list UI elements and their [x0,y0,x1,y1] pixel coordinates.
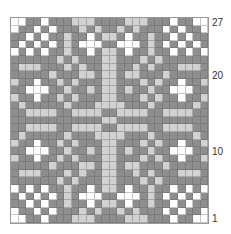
chart-cell [140,18,148,26]
chart-cell [155,177,163,185]
chart-cell [178,33,186,41]
chart-cell [133,48,141,56]
chart-cell [178,41,186,49]
chart-cell [163,86,171,94]
chart-cell [87,33,95,41]
chart-cell [133,147,141,155]
chart-cell [163,170,171,178]
chart-cell [110,132,118,140]
chart-cell [11,79,19,87]
chart-cell [34,86,42,94]
chart-cell [163,162,171,170]
chart-cell [41,117,49,125]
chart-cell [49,132,57,140]
chart-cell [163,208,171,216]
chart-cell [79,26,87,34]
chart-cell [178,147,186,155]
chart-cell [41,94,49,102]
chart-cell [125,147,133,155]
chart-cell [193,140,201,148]
chart-cell [170,86,178,94]
chart-cell [87,185,95,193]
chart-cell [140,147,148,155]
chart-cell [34,79,42,87]
chart-cell [34,94,42,102]
chart-cell [110,200,118,208]
chart-cell [193,155,201,163]
chart-cell [49,117,57,125]
chart-cell [155,215,163,223]
chart-cell [178,117,186,125]
chart-cell [170,64,178,72]
chart-cell [178,102,186,110]
chart-cell [95,56,103,64]
chart-cell [186,79,194,87]
chart-cell [186,33,194,41]
row-label-10: 10 [212,147,223,157]
chart-cell [186,140,194,148]
chart-cell [34,162,42,170]
chart-cell [41,193,49,201]
chart-cell [178,79,186,87]
chart-cell [95,147,103,155]
chart-cell [201,124,209,132]
chart-cell [170,162,178,170]
chart-cell [95,64,103,72]
chart-cell [11,147,19,155]
chart-cell [148,79,156,87]
chart-cell [79,41,87,49]
chart-cell [79,132,87,140]
chart-cell [72,177,80,185]
chart-cell [64,33,72,41]
chart-cell [148,155,156,163]
chart-cell [178,109,186,117]
chart-cell [140,86,148,94]
chart-cell [201,41,209,49]
chart-cell [57,109,65,117]
chart-cell [110,124,118,132]
chart-cell [140,185,148,193]
chart-cell [178,18,186,26]
chart-cell [102,64,110,72]
chart-cell [155,86,163,94]
chart-cell [170,41,178,49]
chart-cell [57,155,65,163]
chart-cell [148,102,156,110]
chart-cell [140,193,148,201]
chart-cell [117,177,125,185]
chart-cell [19,208,27,216]
chart-cell [193,147,201,155]
chart-cell [34,109,42,117]
chart-cell [117,132,125,140]
chart-cell [125,86,133,94]
chart-cell [19,177,27,185]
chart-cell [163,94,171,102]
chart-cell [41,33,49,41]
chart-cell [26,177,34,185]
chart-cell [133,155,141,163]
chart-cell [140,79,148,87]
chart-cell [125,200,133,208]
chart-cell [178,215,186,223]
chart-cell [133,18,141,26]
chart-cell [19,155,27,163]
chart-cell [64,71,72,79]
chart-cell [72,155,80,163]
chart-cell [148,208,156,216]
chart-cell [186,215,194,223]
chart-cell [163,193,171,201]
chart-cell [201,117,209,125]
chart-cell [49,26,57,34]
chart-cell [95,208,103,216]
chart-cell [79,64,87,72]
chart-cell [140,132,148,140]
chart-cell [102,185,110,193]
chart-cell [155,117,163,125]
chart-cell [110,94,118,102]
chart-cell [193,86,201,94]
chart-cell [178,64,186,72]
chart-cell [41,208,49,216]
chart-cell [163,33,171,41]
chart-cell [57,64,65,72]
chart-cell [79,56,87,64]
